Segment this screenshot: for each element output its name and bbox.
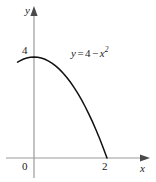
- parabola-figure: y x 4 0 2 y=4−x2: [0, 0, 156, 182]
- equation-minus: −: [91, 47, 100, 59]
- equation-constant: 4: [85, 47, 91, 59]
- x-axis-label: x: [140, 163, 145, 174]
- parabola-curve: [18, 57, 107, 158]
- y-tick-label-4: 4: [22, 45, 28, 56]
- plot-canvas: [0, 0, 156, 182]
- equation-equals: =: [76, 47, 85, 59]
- equation-exponent: 2: [105, 45, 109, 54]
- x-tick-label-2: 2: [102, 161, 108, 172]
- origin-label: 0: [22, 161, 28, 172]
- y-axis-label: y: [25, 5, 30, 16]
- x-axis-arrow-icon: [140, 154, 150, 161]
- curve-equation-label: y=4−x2: [71, 48, 108, 59]
- y-axis-arrow-icon: [30, 6, 37, 16]
